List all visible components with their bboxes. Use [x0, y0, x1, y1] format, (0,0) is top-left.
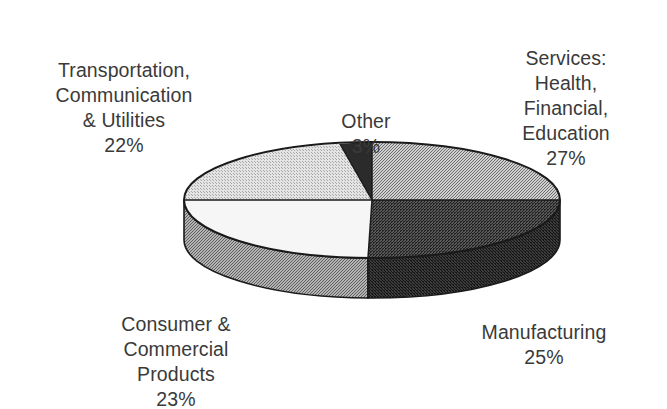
pie-label-consumer-text: Consumer & Commercial Products	[121, 313, 230, 385]
pie-chart-figure: Transportation, Communication & Utilitie…	[0, 0, 667, 409]
pie-label-transportation-text: Transportation, Communication & Utilitie…	[56, 59, 193, 131]
pie-label-consumer-percent: 23%	[62, 387, 290, 409]
pie-label-manufacturing: Manufacturing 25%	[436, 295, 652, 395]
pie-label-manufacturing-percent: 25%	[436, 345, 652, 370]
pie-label-transportation: Transportation, Communication & Utilitie…	[14, 33, 234, 183]
pie-label-services-percent: 27%	[486, 146, 646, 171]
pie-label-transportation-percent: 22%	[14, 133, 234, 158]
pie-label-other-text: Other	[341, 110, 390, 132]
pie-label-other-percent: 3%	[292, 134, 440, 159]
pie-label-consumer: Consumer & Commercial Products 23%	[62, 287, 290, 409]
pie-label-services: Services: Health, Financial, Education 2…	[486, 21, 646, 196]
pie-label-manufacturing-text: Manufacturing	[482, 321, 607, 343]
pie-label-other: Other 3%	[292, 84, 440, 184]
pie-label-services-text: Services: Health, Financial, Education	[522, 47, 610, 144]
